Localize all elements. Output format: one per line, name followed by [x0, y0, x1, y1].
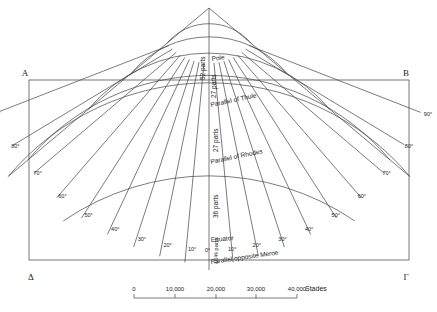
meridian-line: [57, 55, 181, 198]
degree-label: 20°: [163, 242, 171, 248]
scale-tick-40000: 40,000: [288, 286, 307, 292]
fan-edge-right: [8, 8, 209, 176]
meridian-line: [238, 55, 362, 198]
corner-label-a: A: [22, 68, 29, 78]
degree-label: 50°: [332, 212, 340, 218]
label-52-parts: 52 parts: [199, 56, 207, 80]
meridian-line: [229, 59, 311, 234]
corner-label-delta: Δ: [28, 272, 34, 282]
label-27-parts-upper: 27 parts: [210, 74, 218, 98]
label-36-parts: 36 parts: [212, 194, 220, 218]
degree-label: 40°: [305, 226, 313, 232]
meridian-line: [160, 62, 199, 256]
scale-tick-10000: 10,000: [166, 286, 185, 292]
scale-tick-20000: 20,000: [207, 286, 226, 292]
scale-bar: 0 10,000 20,000 30,000 40,000 Stades: [132, 285, 327, 298]
degree-label: 60°: [58, 193, 66, 199]
degree-label: 70°: [34, 170, 42, 176]
degree-label: 30°: [138, 236, 146, 242]
degree-label: 40°: [111, 226, 119, 232]
scale-unit: Stades: [305, 285, 327, 292]
meridian-line: [134, 61, 195, 247]
label-27-parts: 27 parts: [212, 128, 220, 152]
meridian-line: [107, 59, 189, 234]
degree-label: 10°: [228, 246, 236, 252]
projection-grid: [0, 8, 421, 270]
corner-label-b: B: [403, 68, 409, 78]
degree-label: 80°: [11, 143, 19, 149]
degree-label: 90°: [424, 111, 432, 117]
corner-label-gamma: Γ: [403, 272, 408, 282]
bounding-rectangle: [29, 80, 409, 260]
degree-label: 0°: [205, 247, 210, 253]
meridian-line: [249, 46, 421, 113]
meridian-line: [185, 63, 204, 263]
degree-label: 30°: [278, 236, 286, 242]
label-meroe: Parallel opposite Meroe: [210, 249, 279, 266]
scale-tick-30000: 30,000: [247, 286, 266, 292]
degree-label: 60°: [358, 193, 366, 199]
degree-label: 80°: [405, 143, 413, 149]
label-pole: Pole: [211, 53, 225, 62]
scale-tick-0: 0: [132, 286, 136, 292]
degree-label: 70°: [382, 170, 390, 176]
label-16-parts: 16⅜ parts: [213, 237, 219, 264]
ptolemy-second-projection-diagram: A B Δ Γ 0°10°10°20°20°30°30°40°40°50°50°…: [0, 0, 437, 312]
degree-label: 10°: [188, 246, 196, 252]
degree-label: 50°: [84, 212, 92, 218]
degree-label: 20°: [253, 242, 261, 248]
